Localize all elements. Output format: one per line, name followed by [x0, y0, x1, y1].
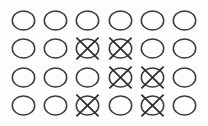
crossed-circle-icon [74, 36, 101, 61]
grid-row [10, 35, 198, 64]
grid-cell[interactable] [10, 65, 37, 90]
circle-icon [10, 93, 37, 118]
grid-cell[interactable] [10, 36, 37, 61]
circle-icon [74, 8, 101, 33]
grid-cell[interactable] [74, 65, 101, 90]
circle-outline [12, 11, 34, 30]
grid-cell[interactable] [42, 8, 69, 33]
grid-cell[interactable] [42, 65, 69, 90]
grid-cell[interactable] [139, 8, 166, 33]
circle-outline [141, 11, 163, 30]
grid-row [10, 63, 198, 92]
grid-row [10, 6, 198, 35]
circle-outline [12, 39, 34, 58]
grid-cell[interactable] [42, 93, 69, 118]
circle-outline [109, 11, 131, 30]
crossed-circle-icon [107, 65, 134, 90]
circle-outline [77, 68, 99, 87]
grid-cell[interactable] [171, 8, 198, 33]
circle-icon [10, 8, 37, 33]
grid-cell-marked[interactable] [107, 65, 134, 90]
circle-icon [10, 65, 37, 90]
circle-icon [139, 8, 166, 33]
grid-cell-marked[interactable] [107, 36, 134, 61]
circle-outline [12, 68, 34, 87]
grid-cell[interactable] [10, 93, 37, 118]
grid-cell[interactable] [42, 36, 69, 61]
circle-icon [42, 8, 69, 33]
circle-outline [44, 11, 66, 30]
circle-icon [171, 65, 198, 90]
circle-outline [173, 68, 195, 87]
circle-icon [139, 36, 166, 61]
circle-icon [107, 93, 134, 118]
crossed-circle-icon [139, 65, 166, 90]
grid-cell[interactable] [171, 93, 198, 118]
grid-cell-marked[interactable] [74, 93, 101, 118]
grid-cell[interactable] [107, 93, 134, 118]
circle-icon [171, 93, 198, 118]
circle-icon [171, 36, 198, 61]
grid-cell-marked[interactable] [139, 93, 166, 118]
circle-grid-canvas [0, 0, 208, 126]
circle-outline [44, 68, 66, 87]
circle-grid-container [0, 0, 208, 126]
circle-outline [44, 96, 66, 115]
grid-cell[interactable] [171, 65, 198, 90]
circle-icon [42, 36, 69, 61]
grid-cell-marked[interactable] [139, 65, 166, 90]
circle-outline [77, 11, 99, 30]
circle-icon [10, 36, 37, 61]
grid-cell[interactable] [74, 8, 101, 33]
crossed-circle-icon [139, 93, 166, 118]
grid-cell-marked[interactable] [74, 36, 101, 61]
circle-outline [173, 11, 195, 30]
circle-icon [171, 8, 198, 33]
grid-cell[interactable] [10, 8, 37, 33]
crossed-circle-icon [107, 36, 134, 61]
circle-outline [109, 96, 131, 115]
circle-outline [173, 39, 195, 58]
crossed-circle-icon [74, 93, 101, 118]
circle-outline [12, 96, 34, 115]
circle-icon [107, 8, 134, 33]
circle-icon [42, 65, 69, 90]
circle-outline [141, 39, 163, 58]
circle-outline [44, 39, 66, 58]
circle-icon [42, 93, 69, 118]
grid-row [10, 92, 198, 121]
grid-cell[interactable] [139, 36, 166, 61]
circle-outline [173, 96, 195, 115]
circle-icon [74, 65, 101, 90]
grid-cell[interactable] [171, 36, 198, 61]
grid-cell[interactable] [107, 8, 134, 33]
